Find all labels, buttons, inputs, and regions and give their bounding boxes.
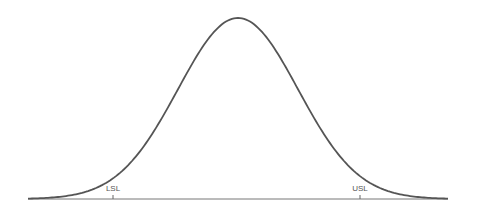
lsl-label: LSL bbox=[106, 184, 121, 193]
bell-curve-chart: LSL USL bbox=[0, 0, 477, 216]
usl-label: USL bbox=[352, 184, 368, 193]
normal-curve bbox=[28, 18, 448, 199]
chart-canvas: LSL USL bbox=[0, 0, 477, 216]
